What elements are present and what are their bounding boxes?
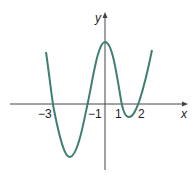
plot-area [0,0,194,176]
curve [46,42,152,157]
chart: y x −3 −1 1 2 [0,0,194,176]
tick-label: 1 [115,108,122,120]
y-axis-label: y [95,12,101,24]
y-axis-arrow-icon [103,12,108,18]
tick-label: −1 [88,108,102,120]
x-axis-label: x [181,108,187,120]
tick-label: −3 [38,108,52,120]
tick-label: 2 [138,108,145,120]
x-axis-arrow-icon [182,102,188,107]
